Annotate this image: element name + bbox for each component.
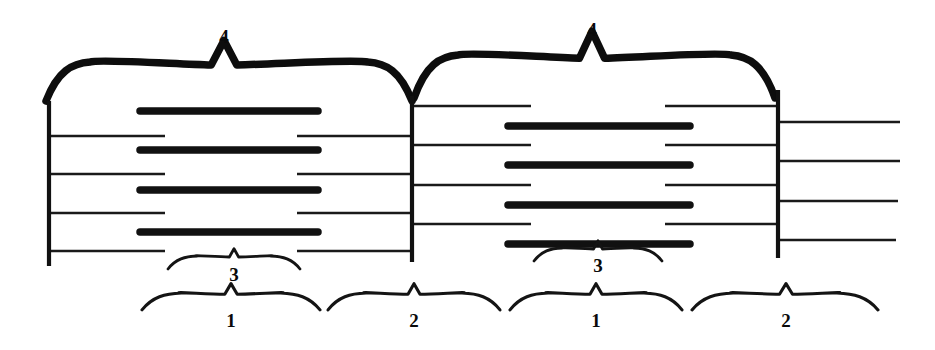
brace-band-1-label-0: 1 bbox=[226, 310, 236, 331]
brace-band-4-label-0: 4 bbox=[219, 26, 229, 47]
figure-root: 44 33 1212 bbox=[0, 0, 935, 350]
brace-band-3-label-0: 3 bbox=[229, 264, 239, 285]
brace-band-1-label-2: 1 bbox=[591, 310, 601, 331]
brace-band-4-label-1: 4 bbox=[587, 19, 597, 40]
brace-band-2-label-3: 2 bbox=[781, 310, 791, 331]
sarcomere-diagram: 44 33 1212 bbox=[0, 0, 935, 350]
brace-band-3-label-1: 3 bbox=[593, 255, 603, 276]
brace-band-2-label-1: 2 bbox=[409, 310, 419, 331]
